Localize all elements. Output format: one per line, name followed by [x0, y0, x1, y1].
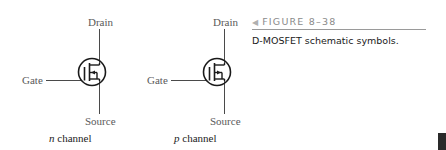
- n-channel-caption: n channel: [49, 133, 91, 144]
- p-source-label: Source: [210, 116, 241, 127]
- page-edge-tab: [438, 133, 446, 150]
- left-triangle-icon: ◀: [252, 18, 258, 27]
- arrow-inward-icon: [91, 71, 95, 75]
- figure-number: ◀FIGURE 8–38: [252, 16, 336, 27]
- arrow-outward-icon: [217, 71, 221, 75]
- n-channel-word: channel: [57, 132, 91, 144]
- p-channel-symbol: [171, 29, 231, 114]
- n-channel-symbol: [46, 29, 106, 114]
- figure-caption: D-MOSFET schematic symbols.: [252, 35, 399, 46]
- figure-canvas: Drain Gate Source n channel Drain Gate S…: [0, 0, 446, 150]
- p-drain-label: Drain: [213, 17, 238, 28]
- n-gate-label: Gate: [22, 75, 43, 86]
- n-drain-label: Drain: [88, 17, 113, 28]
- figure-number-text: FIGURE 8–38: [262, 16, 336, 27]
- p-channel-word: channel: [182, 132, 216, 144]
- figure-divider: [252, 29, 426, 30]
- p-channel-caption: p channel: [174, 133, 216, 144]
- p-channel-letter: p: [174, 132, 180, 144]
- n-channel-letter: n: [49, 132, 55, 144]
- n-source-label: Source: [85, 116, 116, 127]
- p-gate-label: Gate: [147, 75, 168, 86]
